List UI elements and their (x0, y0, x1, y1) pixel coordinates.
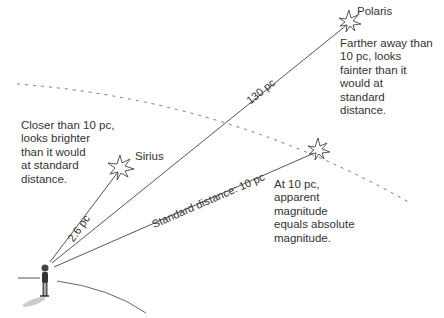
note-sirius: Closer than 10 pc, looks brighter than i… (21, 119, 114, 186)
observer-person-icon (22, 265, 49, 309)
note-standard: At 10 pc, apparent magnitude equals abso… (274, 178, 355, 245)
note-polaris: Farther away than 10 pc, looks fainter t… (340, 37, 433, 117)
star-standard-icon (308, 138, 330, 160)
star-label-sirius: Sirius (135, 150, 164, 163)
star-label-polaris: Polaris (357, 5, 392, 18)
ground-arc (57, 281, 146, 313)
